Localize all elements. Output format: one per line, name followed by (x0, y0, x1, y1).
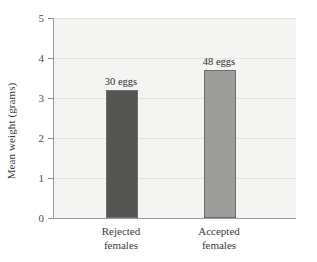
gridline (54, 98, 296, 99)
category-label-line: Rejected (66, 224, 176, 238)
y-axis-tick-label: 1 (22, 173, 44, 184)
y-axis-tick-label: 0 (22, 213, 44, 224)
category-label-line: Accepted (164, 224, 274, 238)
x-axis-category-label: Acceptedfemales (164, 224, 274, 252)
y-axis-title: Mean weight (grams) (0, 0, 22, 262)
gridline (54, 18, 296, 19)
y-axis-tick-label: 4 (22, 53, 44, 64)
y-axis-tick-label: 2 (22, 133, 44, 144)
y-axis-tick-label: 3 (22, 93, 44, 104)
category-label-line: females (66, 238, 176, 252)
x-axis-category-label: Rejectedfemales (66, 224, 176, 252)
plot-area (53, 18, 296, 219)
gridline (54, 138, 296, 139)
category-label-line: females (164, 238, 274, 252)
bar (106, 90, 138, 218)
bar-chart: Mean weight (grams) 012345 30 eggs48 egg… (0, 0, 317, 262)
bar (204, 70, 236, 218)
gridline (54, 178, 296, 179)
bar-value-label: 48 eggs (184, 57, 254, 68)
y-axis-tick-label: 5 (22, 13, 44, 24)
bar-value-label: 30 eggs (86, 77, 156, 88)
gridline (54, 58, 296, 59)
